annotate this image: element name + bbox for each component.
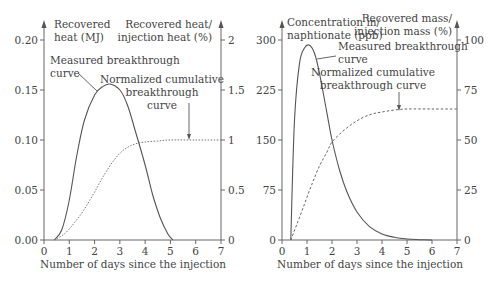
x-tick-label: 0 bbox=[279, 245, 286, 257]
left-measured-pointer bbox=[78, 73, 97, 91]
x-tick-label: 7 bbox=[454, 245, 461, 257]
arrow-up-icon bbox=[219, 20, 224, 28]
left-measured-label: curve bbox=[50, 67, 80, 79]
arrow-down-icon bbox=[187, 134, 191, 140]
right-measured-label: curve bbox=[338, 53, 368, 65]
x-tick-label: 1 bbox=[304, 245, 311, 257]
arrow-up-icon bbox=[455, 20, 460, 28]
right-xlabel: Number of days since the injection bbox=[277, 258, 463, 270]
y-tick-label: 0.15 bbox=[15, 84, 38, 96]
right-yrlabel: Recovered mass/ bbox=[362, 12, 453, 24]
arrow-up-icon bbox=[42, 20, 47, 28]
left-cumulative-curve bbox=[54, 140, 221, 240]
y-tick-label: 0.05 bbox=[15, 184, 38, 196]
y-right-tick-label: 25 bbox=[464, 184, 477, 196]
right-measured-pointer bbox=[317, 56, 336, 59]
x-tick-label: 2 bbox=[91, 245, 98, 257]
figure: 012345670.000.050.100.150.2000.511.52 Re… bbox=[0, 0, 496, 288]
x-tick-label: 4 bbox=[379, 245, 386, 257]
y-tick-label: 0.10 bbox=[15, 134, 38, 146]
right-norm-label: breakthrough curve bbox=[320, 79, 426, 91]
arrow-up-icon bbox=[280, 20, 285, 28]
y-right-tick-label: 0 bbox=[464, 234, 471, 246]
y-tick-label: 150 bbox=[256, 134, 276, 146]
right-chart: 012345670751502253000255075100 Concentra… bbox=[256, 12, 484, 270]
x-tick-label: 6 bbox=[192, 245, 199, 257]
y-right-tick-label: 0 bbox=[228, 234, 235, 246]
x-tick-label: 0 bbox=[41, 245, 48, 257]
left-norm-label: curve bbox=[147, 99, 177, 111]
y-right-tick-label: 1 bbox=[228, 134, 235, 146]
y-right-tick-label: 75 bbox=[464, 84, 477, 96]
x-tick-label: 4 bbox=[142, 245, 149, 257]
y-right-tick-label: 2 bbox=[228, 34, 235, 46]
left-measured-label: Measured breakthrough bbox=[50, 54, 180, 66]
left-yrlabel: injection heat (%) bbox=[118, 31, 212, 43]
y-tick-label: 75 bbox=[263, 184, 276, 196]
left-ylabel: Recovered bbox=[54, 18, 111, 30]
right-cumulative-curve bbox=[291, 109, 457, 240]
y-tick-label: 225 bbox=[256, 84, 276, 96]
x-tick-label: 5 bbox=[404, 245, 411, 257]
x-tick-label: 2 bbox=[329, 245, 336, 257]
right-measured-label: Measured breakthrough bbox=[338, 40, 468, 52]
x-tick-label: 3 bbox=[354, 245, 361, 257]
y-tick-label: 0 bbox=[269, 234, 276, 246]
left-yrlabel: Recovered heat/ bbox=[125, 18, 212, 30]
y-tick-label: 300 bbox=[256, 34, 276, 46]
right-yrlabel: injection mass (%) bbox=[354, 25, 452, 37]
x-tick-label: 6 bbox=[429, 245, 436, 257]
left-norm-label: Normalized cumulative bbox=[100, 73, 224, 85]
y-tick-label: 0.00 bbox=[15, 234, 38, 246]
x-tick-label: 7 bbox=[218, 245, 225, 257]
left-chart: 012345670.000.050.100.150.2000.511.52 Re… bbox=[15, 18, 245, 270]
y-right-tick-label: 1.5 bbox=[228, 84, 245, 96]
y-right-tick-label: 50 bbox=[464, 134, 477, 146]
x-tick-label: 3 bbox=[117, 245, 124, 257]
x-tick-label: 1 bbox=[66, 245, 73, 257]
x-tick-label: 5 bbox=[167, 245, 174, 257]
left-ylabel: heat (MJ) bbox=[54, 31, 104, 43]
y-right-tick-label: 0.5 bbox=[228, 184, 245, 196]
left-norm-label: breakthrough bbox=[125, 86, 198, 98]
right-norm-label: Normalized cumulative bbox=[311, 66, 435, 78]
y-tick-label: 0.20 bbox=[15, 34, 38, 46]
left-xlabel: Number of days since the injection bbox=[40, 258, 226, 270]
